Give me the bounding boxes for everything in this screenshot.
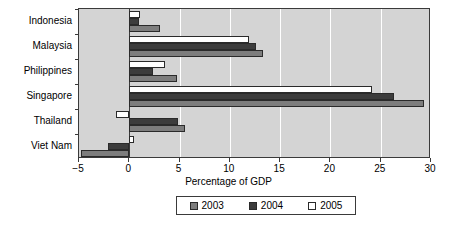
gridline [280,9,281,157]
y-axis-category-label: Indonesia [29,16,72,26]
legend-swatch-2004-icon [249,202,257,210]
y-axis-tick [75,34,79,35]
x-axis-tick-label: 15 [259,163,299,175]
x-axis-tick [229,158,230,162]
plot-area [78,8,430,158]
y-axis-category-label: Singapore [26,91,72,101]
x-axis-tick [430,158,431,162]
x-axis-title: Percentage of GDP [0,176,457,187]
x-axis-tick-label: 0 [108,163,148,175]
x-axis-tick-label: 30 [410,163,450,175]
bar-thailand-2005 [116,111,129,118]
gridline [330,9,331,157]
legend-label-2005: 2005 [320,201,342,211]
x-axis-tick-label: −5 [58,163,98,175]
legend-label-2004: 2004 [261,201,283,211]
x-axis-tick-label: 5 [159,163,199,175]
y-axis-category-label: Malaysia [33,41,72,51]
gridline [381,9,382,157]
bar-indonesia-2004 [129,18,139,25]
bar-chart: IndonesiaMalaysiaPhilippinesSingaporeTha… [0,0,457,229]
bar-viet-nam-2003 [81,150,129,157]
legend-label-2003: 2003 [202,201,224,211]
legend-item-2005[interactable]: 2005 [308,201,342,211]
bar-philippines-2005 [129,61,165,68]
bar-viet-nam-2004 [108,143,129,150]
bar-thailand-2003 [129,125,184,132]
x-axis-tick [380,158,381,162]
x-axis-tick [78,158,79,162]
x-axis-tick [179,158,180,162]
gridline [180,9,181,157]
x-axis-tick [128,158,129,162]
bar-singapore-2004 [129,93,394,100]
x-axis-tick-label: 25 [360,163,400,175]
bar-malaysia-2003 [129,50,263,57]
y-axis-category-label: Thailand [34,116,72,126]
y-axis-tick [75,59,79,60]
chart-legend: 2003 2004 2005 [176,196,356,215]
y-axis-category-label: Viet Nam [31,141,72,151]
bar-philippines-2004 [129,68,153,75]
bar-viet-nam-2005 [129,136,134,143]
bar-indonesia-2003 [129,25,160,32]
legend-swatch-2005-icon [308,202,316,210]
x-axis-tick [279,158,280,162]
x-axis-tick [329,158,330,162]
bar-singapore-2003 [129,100,424,107]
y-axis-tick [75,134,79,135]
bar-malaysia-2005 [129,36,249,43]
bar-malaysia-2004 [129,43,256,50]
bar-philippines-2003 [129,75,176,82]
legend-item-2004[interactable]: 2004 [249,201,283,211]
x-axis-tick-label: 20 [309,163,349,175]
x-axis-tick-label: 10 [209,163,249,175]
bar-indonesia-2005 [129,11,140,18]
y-axis-tick [75,9,79,10]
gridline [230,9,231,157]
legend-swatch-2003-icon [190,202,198,210]
bar-singapore-2005 [129,86,371,93]
y-axis-tick [75,84,79,85]
y-axis-tick [75,109,79,110]
bar-thailand-2004 [129,118,177,125]
legend-item-2003[interactable]: 2003 [190,201,224,211]
y-axis-category-label: Philippines [24,66,72,76]
